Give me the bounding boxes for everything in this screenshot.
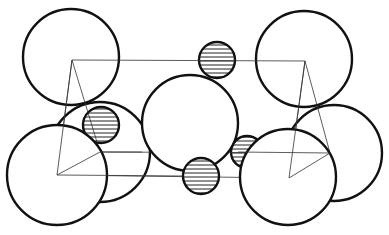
large-atom-center: [142, 75, 238, 171]
crystal-structure-diagram: [0, 0, 389, 235]
large-atom-top-right: [256, 11, 352, 107]
large-atom-top-left: [23, 9, 119, 105]
large-atom-front-right: [240, 129, 336, 225]
small-atom-bottom: [183, 158, 219, 194]
small-atom-top: [199, 42, 235, 78]
